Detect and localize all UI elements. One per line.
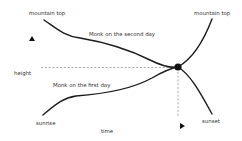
sunrise-label: sunrise: [36, 120, 56, 126]
time-axis-label: time: [101, 128, 114, 134]
sunset-label: sunset: [202, 118, 220, 124]
first-day-label: Monk on the first day: [53, 82, 111, 89]
monk-mountain-diagram: mountain top mountain top Monk on the se…: [0, 0, 242, 141]
height-axis-label: height: [14, 70, 31, 77]
mountain-top-right-label: mountain top: [194, 10, 231, 17]
height-axis-arrow-icon: [29, 36, 35, 41]
intersection-dot: [174, 63, 181, 70]
second-day-label: Monk on the second day: [89, 31, 156, 38]
mountain-top-left-label: mountain top: [29, 10, 66, 17]
time-axis-arrow-icon: [180, 123, 185, 129]
